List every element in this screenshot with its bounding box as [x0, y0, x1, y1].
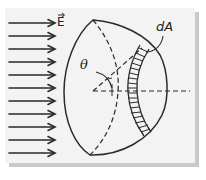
field-label: E [57, 16, 65, 28]
theta-arc-tick [108, 78, 112, 79]
field-arrow [9, 98, 55, 105]
hemisphere-flux-diagram [0, 0, 206, 180]
electric-field-arrows [9, 20, 55, 157]
field-arrow [9, 46, 55, 53]
field-arrow [9, 137, 55, 144]
theta-arc [96, 72, 112, 88]
rim-back-edge [90, 20, 118, 155]
angle-label: θ [80, 58, 88, 71]
area-element-label: dA [156, 20, 173, 33]
area-element-strip [128, 45, 151, 136]
field-arrow [9, 72, 55, 79]
field-arrow [9, 85, 55, 92]
field-arrow [9, 20, 55, 27]
field-arrow [9, 33, 55, 40]
field-arrow [9, 111, 55, 118]
field-arrow [9, 59, 55, 66]
field-arrow [9, 150, 55, 157]
hemisphere-outline [64, 20, 167, 155]
field-arrow [9, 124, 55, 131]
